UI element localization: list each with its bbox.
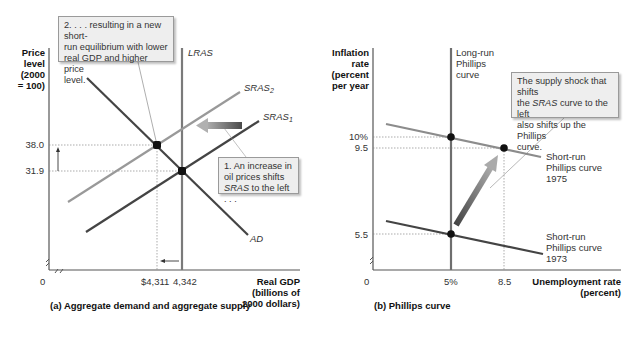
x-tick-4311: $4,311 bbox=[141, 276, 169, 287]
x-axis-title-line: Unemployment rate bbox=[520, 276, 621, 287]
point-5-10 bbox=[447, 133, 455, 141]
equilibrium-point-new bbox=[153, 141, 161, 149]
y-axis-title-line: = 100) bbox=[6, 80, 45, 91]
equilibrium-point-initial bbox=[178, 167, 186, 175]
callout-line: level. bbox=[64, 75, 168, 86]
srpc-1975-label-line: 1975 bbox=[546, 173, 602, 184]
sras1-label: SRAS1 bbox=[263, 111, 293, 125]
callout-line-pre: the bbox=[517, 98, 532, 108]
srpc-1973-label-line: Short-run bbox=[546, 231, 602, 242]
x-axis-title-unemployment-rate: Unemployment rate (percent) bbox=[520, 276, 621, 298]
callout-line: curve. bbox=[517, 142, 613, 153]
callout-line: the SRAS curve to the left bbox=[517, 98, 613, 120]
y-tick-31-9: 31.9 bbox=[14, 165, 44, 176]
y-axis-title-line: Price bbox=[6, 47, 45, 58]
callout-italic-sras: SRAS bbox=[532, 98, 557, 108]
y-axis-title-line: Inflation bbox=[320, 47, 369, 58]
ad-label: AD bbox=[250, 233, 263, 244]
y-axis-title-line: rate bbox=[320, 58, 369, 69]
point-5-5-5 bbox=[447, 230, 455, 238]
lrpc-label-line: curve bbox=[456, 69, 494, 80]
srpc-1973-line bbox=[386, 221, 543, 254]
callout-italic-sras: SRAS bbox=[224, 183, 249, 193]
y-axis-title-line: (2000 bbox=[6, 69, 45, 80]
srpc-1973-label-line: Phillips curve bbox=[546, 242, 602, 253]
sras2-label-main: SRAS bbox=[244, 82, 270, 93]
origin-label: 0 bbox=[364, 276, 369, 287]
caption-panel-a: (a) Aggregate demand and aggregate suppl… bbox=[50, 300, 251, 311]
sras1-label-sub: 1 bbox=[289, 116, 293, 123]
gdp-left-arrow bbox=[160, 259, 179, 263]
srpc-1975-label: Short-run Phillips curve 1975 bbox=[546, 151, 602, 184]
x-axis-title-line: Real GDP bbox=[230, 276, 300, 287]
y-axis-title-line: per year bbox=[320, 80, 369, 91]
srpc-1975-label-line: Phillips curve bbox=[546, 162, 602, 173]
sras2-label-sub: 2 bbox=[270, 87, 274, 94]
y-tick-5-5: 5.5 bbox=[334, 229, 368, 240]
callout-line: The supply shock that shifts bbox=[517, 76, 613, 98]
srpc-1973-label-line: 1973 bbox=[546, 253, 602, 264]
x-tick-5: 5% bbox=[444, 276, 458, 287]
callout-line: real GDP and higher price bbox=[64, 53, 168, 75]
lrpc-label-line: Phillips bbox=[456, 58, 494, 69]
callout-line: also shifts up the Phillips bbox=[517, 120, 613, 142]
y-axis-title-line: level bbox=[6, 58, 45, 69]
y-axis-title-inflation-rate: Inflation rate (percent per year bbox=[320, 47, 369, 91]
callout-line: 1. An increase in bbox=[224, 161, 293, 172]
x-tick-8-5: 8.5 bbox=[498, 276, 511, 287]
lrpc-label: Long-run Phillips curve bbox=[456, 47, 494, 80]
callout-line: oil prices shifts bbox=[224, 172, 293, 183]
x-axis-title-line: (billions of bbox=[230, 287, 300, 298]
srpc-1973-label: Short-run Phillips curve 1973 bbox=[546, 231, 602, 264]
callout-supply-shock: The supply shock that shifts the SRAS cu… bbox=[511, 72, 619, 118]
sras1-label-main: SRAS bbox=[263, 111, 289, 122]
callout-line: SRAS to the left . . . bbox=[224, 183, 293, 205]
x-tick-4342: 4,342 bbox=[173, 276, 197, 287]
lrpc-label-line: Long-run bbox=[456, 47, 494, 58]
y-tick-38: 38.0 bbox=[14, 139, 44, 150]
point-8-5-9-5 bbox=[500, 144, 508, 152]
y-axis-title-price-level: Price level (2000 = 100) bbox=[6, 47, 45, 91]
y-tick-10: 10% bbox=[334, 131, 368, 142]
callout-line: 2. . . . resulting in a new short- bbox=[64, 20, 168, 42]
y-axis-title-line: (percent bbox=[320, 69, 369, 80]
price-up-arrow bbox=[56, 147, 60, 171]
caption-panel-b: (b) Phillips curve bbox=[374, 300, 451, 311]
lras-label: LRAS bbox=[188, 47, 213, 58]
x-axis-title-line: (percent) bbox=[520, 287, 621, 298]
sras2-label: SRAS2 bbox=[244, 82, 274, 96]
origin-label: 0 bbox=[40, 276, 45, 287]
callout-oil-price-increase: 1. An increase in oil prices shifts SRAS… bbox=[218, 157, 299, 194]
shift-left-arrow bbox=[196, 118, 242, 133]
y-tick-9-5: 9.5 bbox=[334, 142, 368, 153]
shift-up-arrow bbox=[456, 155, 498, 225]
callout-line: run equilibrium with lower bbox=[64, 42, 168, 53]
callout-new-equilibrium: 2. . . . resulting in a new short- run e… bbox=[58, 16, 174, 62]
